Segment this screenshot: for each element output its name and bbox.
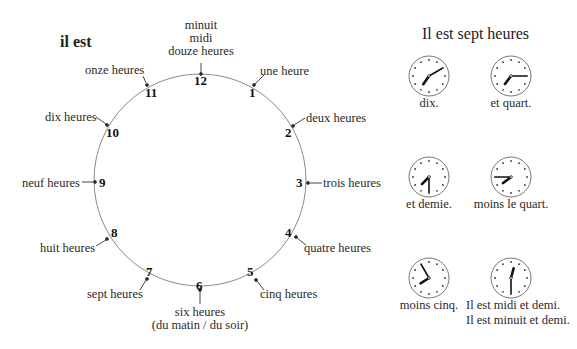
hour-3-label: trois heures: [323, 176, 381, 190]
hour-12-label-douze: douze heures: [161, 44, 241, 58]
hour-10-number: 10: [106, 126, 119, 140]
hour-7-label: sept heures: [87, 287, 143, 301]
small-clock-2: [491, 56, 531, 96]
hour-6-sublabel: (du matin / du soir): [135, 318, 265, 332]
hour-12-number: 12: [194, 74, 207, 88]
clock-caption-moins-cinq: moins cinq.: [394, 298, 464, 313]
hour-12-label-minuit: minuit: [173, 18, 229, 32]
hour-5-number: 5: [247, 265, 254, 279]
small-clock-3: [409, 157, 449, 197]
hour-12-label-midi: midi: [173, 31, 229, 45]
clock-caption-et-quart: et quart.: [476, 96, 546, 111]
hour-5-label: cinq heures: [260, 287, 317, 301]
hour-8-number: 8: [111, 226, 118, 240]
clock-caption-moins-le-quart: moins le quart.: [466, 197, 556, 212]
hour-2-label: deux heures: [306, 111, 366, 125]
side-panel-title: Il est sept heures: [422, 25, 529, 43]
hour-4-label: quatre heures: [304, 241, 371, 255]
hour-9-label: neuf heures: [22, 176, 80, 190]
clock-caption-minuit-et-demi: Il est minuit et demi.: [466, 313, 576, 328]
clock-caption-dix: dix.: [399, 96, 459, 111]
clock-caption-et-demie: et demie.: [394, 197, 464, 212]
hour-1-number: 1: [249, 86, 256, 100]
minute-hand: [422, 265, 430, 278]
hour-8-label: huit heures: [40, 241, 95, 255]
clock-caption-midi-et-demi: Il est midi et demi.: [466, 298, 566, 313]
main-clock-face: [94, 74, 306, 286]
hour-6-number: 6: [196, 279, 203, 293]
hour-2-number: 2: [285, 126, 292, 140]
small-clock-1: [409, 56, 449, 96]
hour-6-label: six heures: [150, 305, 250, 319]
hour-10-label: dix heures: [45, 110, 97, 124]
small-clock-6: [491, 258, 531, 298]
hour-11-number: 11: [145, 86, 157, 100]
hour-1-label: une heure: [260, 64, 309, 78]
hour-9-number: 9: [99, 176, 106, 190]
small-clock-4: [491, 157, 531, 197]
hour-7-number: 7: [146, 265, 153, 279]
main-clock-title: il est: [60, 33, 92, 51]
hour-3-number: 3: [296, 176, 303, 190]
small-clock-5: [409, 258, 449, 298]
minute-hand: [429, 69, 442, 77]
hour-11-label: onze heures: [85, 63, 144, 77]
hour-4-number: 4: [285, 226, 292, 240]
